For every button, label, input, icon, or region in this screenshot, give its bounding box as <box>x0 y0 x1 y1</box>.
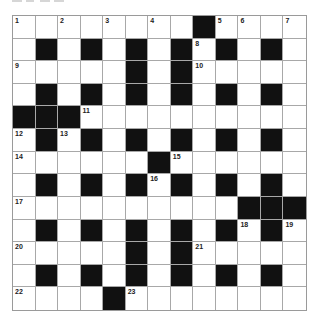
grid-cell[interactable] <box>283 61 306 84</box>
grid-cell[interactable] <box>148 84 171 107</box>
grid-cell[interactable]: 18 <box>238 220 261 243</box>
grid-cell[interactable]: 17 <box>13 197 36 220</box>
grid-cell[interactable] <box>36 242 59 265</box>
grid-cell[interactable] <box>283 265 306 288</box>
grid-cell[interactable] <box>261 16 284 39</box>
grid-cell[interactable] <box>103 220 126 243</box>
grid-cell[interactable] <box>238 84 261 107</box>
grid-cell[interactable] <box>13 84 36 107</box>
grid-cell[interactable]: 15 <box>171 152 194 175</box>
grid-cell[interactable] <box>81 152 104 175</box>
grid-cell[interactable]: 22 <box>13 287 36 310</box>
grid-cell[interactable] <box>36 287 59 310</box>
grid-cell[interactable]: 2 <box>58 16 81 39</box>
grid-cell[interactable] <box>216 152 239 175</box>
grid-cell[interactable] <box>261 242 284 265</box>
grid-cell[interactable] <box>171 16 194 39</box>
grid-cell[interactable]: 11 <box>81 106 104 129</box>
grid-cell[interactable] <box>81 242 104 265</box>
grid-cell[interactable]: 21 <box>193 242 216 265</box>
grid-cell[interactable]: 14 <box>13 152 36 175</box>
grid-cell[interactable] <box>81 16 104 39</box>
grid-cell[interactable] <box>148 265 171 288</box>
grid-cell[interactable]: 6 <box>238 16 261 39</box>
grid-cell[interactable] <box>58 39 81 62</box>
grid-cell[interactable] <box>193 265 216 288</box>
grid-cell[interactable] <box>148 61 171 84</box>
grid-cell[interactable] <box>283 174 306 197</box>
grid-cell[interactable] <box>283 129 306 152</box>
grid-cell[interactable] <box>283 39 306 62</box>
grid-cell[interactable] <box>193 220 216 243</box>
grid-cell[interactable] <box>81 287 104 310</box>
grid-cell[interactable] <box>13 220 36 243</box>
grid-cell[interactable]: 12 <box>13 129 36 152</box>
grid-cell[interactable] <box>216 106 239 129</box>
grid-cell[interactable] <box>13 265 36 288</box>
grid-cell[interactable] <box>148 39 171 62</box>
grid-cell[interactable]: 4 <box>148 16 171 39</box>
grid-cell[interactable] <box>36 61 59 84</box>
grid-cell[interactable] <box>148 242 171 265</box>
grid-cell[interactable] <box>13 174 36 197</box>
grid-cell[interactable] <box>81 197 104 220</box>
grid-cell[interactable] <box>103 174 126 197</box>
grid-cell[interactable] <box>193 84 216 107</box>
grid-cell[interactable] <box>58 287 81 310</box>
grid-cell[interactable] <box>238 287 261 310</box>
grid-cell[interactable] <box>261 287 284 310</box>
grid-cell[interactable] <box>103 39 126 62</box>
grid-cell[interactable] <box>193 129 216 152</box>
grid-cell[interactable] <box>238 106 261 129</box>
grid-cell[interactable] <box>58 174 81 197</box>
grid-cell[interactable] <box>103 61 126 84</box>
grid-cell[interactable] <box>126 197 149 220</box>
grid-cell[interactable] <box>283 152 306 175</box>
grid-cell[interactable] <box>193 287 216 310</box>
grid-cell[interactable] <box>126 106 149 129</box>
grid-cell[interactable] <box>148 220 171 243</box>
grid-cell[interactable]: 20 <box>13 242 36 265</box>
grid-cell[interactable]: 3 <box>103 16 126 39</box>
grid-cell[interactable] <box>126 152 149 175</box>
grid-cell[interactable] <box>36 16 59 39</box>
grid-cell[interactable] <box>238 152 261 175</box>
grid-cell[interactable]: 1 <box>13 16 36 39</box>
grid-cell[interactable] <box>126 16 149 39</box>
grid-cell[interactable] <box>36 197 59 220</box>
grid-cell[interactable] <box>148 287 171 310</box>
grid-cell[interactable] <box>238 174 261 197</box>
grid-cell[interactable] <box>238 61 261 84</box>
grid-cell[interactable] <box>193 152 216 175</box>
grid-cell[interactable] <box>103 197 126 220</box>
grid-cell[interactable] <box>283 287 306 310</box>
grid-cell[interactable]: 7 <box>283 16 306 39</box>
grid-cell[interactable] <box>283 84 306 107</box>
grid-cell[interactable]: 16 <box>148 174 171 197</box>
grid-cell[interactable] <box>261 61 284 84</box>
grid-cell[interactable] <box>261 106 284 129</box>
grid-cell[interactable] <box>58 61 81 84</box>
grid-cell[interactable]: 9 <box>13 61 36 84</box>
grid-cell[interactable] <box>36 152 59 175</box>
grid-cell[interactable] <box>238 242 261 265</box>
grid-cell[interactable] <box>261 152 284 175</box>
grid-cell[interactable] <box>216 61 239 84</box>
grid-cell[interactable]: 8 <box>193 39 216 62</box>
grid-cell[interactable] <box>238 265 261 288</box>
grid-cell[interactable] <box>193 197 216 220</box>
grid-cell[interactable] <box>58 152 81 175</box>
grid-cell[interactable] <box>58 220 81 243</box>
grid-cell[interactable] <box>103 84 126 107</box>
grid-cell[interactable] <box>148 106 171 129</box>
grid-cell[interactable] <box>13 39 36 62</box>
grid-cell[interactable] <box>103 152 126 175</box>
grid-cell[interactable] <box>283 242 306 265</box>
grid-cell[interactable] <box>103 129 126 152</box>
grid-cell[interactable] <box>238 129 261 152</box>
grid-cell[interactable] <box>216 287 239 310</box>
grid-cell[interactable]: 19 <box>283 220 306 243</box>
grid-cell[interactable] <box>193 174 216 197</box>
grid-cell[interactable]: 13 <box>58 129 81 152</box>
grid-cell[interactable]: 10 <box>193 61 216 84</box>
